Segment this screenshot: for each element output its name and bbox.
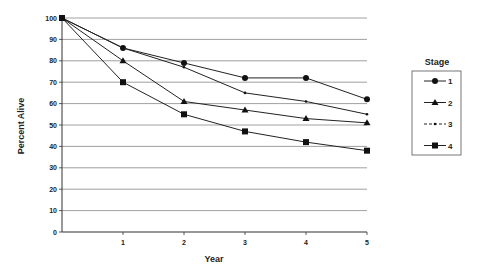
y-tick-label: 70 (49, 79, 57, 86)
y-tick-label: 40 (49, 143, 57, 150)
legend-label: 2 (448, 99, 453, 108)
legend-label: 1 (448, 77, 453, 86)
x-tick-label: 1 (121, 239, 125, 246)
y-tick-label: 10 (49, 207, 57, 214)
y-tick-label: 50 (49, 122, 57, 129)
series-stage-2 (62, 18, 371, 125)
legend-label: 3 (448, 120, 453, 129)
y-axis-title: Percent Alive (16, 98, 26, 155)
legend: 1234 (412, 71, 461, 155)
survival-line-chart: 0102030405060708090100 12345 Percent Ali… (0, 0, 482, 274)
gridlines (62, 18, 367, 211)
data-series (59, 15, 371, 154)
series-stage-1 (62, 18, 370, 102)
y-tick-label: 60 (49, 100, 57, 107)
x-tick-label: 3 (243, 239, 247, 246)
legend-title: Stage (425, 57, 450, 67)
y-tick-label: 0 (53, 229, 57, 236)
x-axis-ticks: 12345 (121, 232, 369, 246)
x-tick-label: 4 (304, 239, 308, 246)
y-tick-label: 20 (49, 186, 57, 193)
x-tick-label: 5 (365, 239, 369, 246)
y-tick-label: 100 (45, 15, 57, 22)
y-tick-label: 80 (49, 57, 57, 64)
y-tick-label: 30 (49, 164, 57, 171)
legend-box (412, 71, 461, 155)
x-tick-label: 2 (182, 239, 186, 246)
y-axis-ticks: 0102030405060708090100 (45, 15, 62, 236)
y-tick-label: 90 (49, 36, 57, 43)
x-axis-title: Year (204, 254, 224, 264)
legend-label: 4 (448, 142, 453, 151)
